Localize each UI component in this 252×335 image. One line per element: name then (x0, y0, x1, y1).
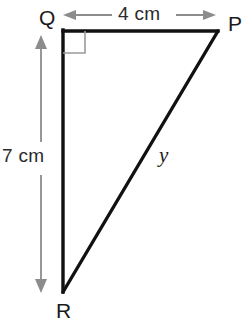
dimension-label-top: 4 cm (118, 4, 160, 23)
vertex-label-R: R (56, 300, 71, 321)
triangle-figure-svg (0, 0, 252, 335)
vertex-label-Q: Q (39, 7, 55, 28)
geometry-diagram: Q P R 4 cm 7 cm y (0, 0, 252, 335)
vertex-label-P: P (228, 13, 242, 34)
side-label-hypotenuse: y (159, 145, 168, 166)
dimension-label-left: 7 cm (2, 146, 44, 165)
